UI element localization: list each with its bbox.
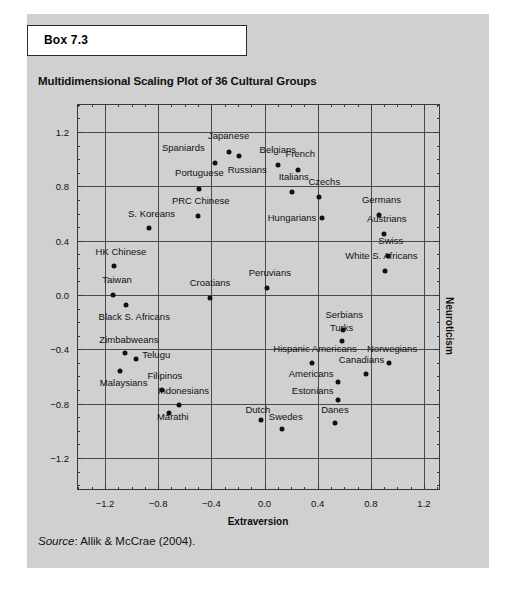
- data-point-label: Americans: [289, 368, 334, 379]
- data-point-label: Norwegians: [367, 343, 417, 354]
- data-point-label: White S. Africans: [345, 250, 417, 261]
- data-point: [213, 161, 218, 166]
- axis-tick-y: [77, 268, 80, 269]
- data-point: [133, 356, 138, 361]
- axis-tick-y: [434, 241, 440, 242]
- axis-tick-y: [437, 472, 440, 473]
- axis-tick-y: [437, 281, 440, 282]
- axis-tick-x: [424, 104, 425, 110]
- y-tick-label: −0.4: [37, 344, 69, 355]
- axis-tick-x: [278, 104, 279, 107]
- axis-tick-y: [437, 485, 440, 486]
- y-axis-title: Neuroticism: [444, 297, 455, 355]
- axis-tick-x: [171, 104, 172, 107]
- data-point-label: Swiss: [378, 235, 403, 246]
- axis-tick-x: [105, 104, 106, 110]
- axis-tick-x: [185, 104, 186, 107]
- axis-tick-y: [77, 173, 80, 174]
- axis-tick-x: [304, 487, 305, 490]
- axis-tick-x: [132, 487, 133, 490]
- axis-tick-y: [437, 336, 440, 337]
- axis-tick-x: [185, 487, 186, 490]
- axis-tick-y: [437, 105, 440, 106]
- axis-tick-x: [331, 487, 332, 490]
- axis-tick-y: [434, 295, 440, 296]
- axis-tick-y: [437, 200, 440, 201]
- data-point: [177, 402, 182, 407]
- x-tick-label: 0.8: [364, 498, 377, 509]
- axis-tick-x: [358, 104, 359, 107]
- axis-tick-x: [225, 487, 226, 490]
- axis-tick-y: [77, 105, 80, 106]
- axis-tick-y: [77, 254, 80, 255]
- axis-tick-y: [77, 336, 80, 337]
- y-tick-label: −1.2: [37, 452, 69, 463]
- axis-tick-x: [344, 104, 345, 107]
- data-point-label: Russians: [228, 164, 267, 175]
- data-point-label: HK Chinese: [96, 246, 147, 257]
- axis-tick-y: [77, 363, 80, 364]
- axis-tick-y: [77, 444, 80, 445]
- data-point-label: Dutch: [245, 404, 270, 415]
- data-point-label: Telugu: [142, 349, 170, 360]
- axis-tick-x: [145, 487, 146, 490]
- data-point: [290, 189, 295, 194]
- axis-tick-x: [171, 487, 172, 490]
- y-tick-label: 1.2: [37, 127, 69, 138]
- axis-tick-x: [411, 104, 412, 107]
- y-tick-label: 0.8: [37, 181, 69, 192]
- data-point-label: Black S. Africans: [99, 311, 170, 322]
- data-point-label: Portuguese: [175, 167, 224, 178]
- axis-tick-x: [384, 104, 385, 107]
- data-point-label: PRC Chinese: [172, 195, 230, 206]
- x-tick-label: −0.4: [202, 498, 221, 509]
- axis-tick-y: [77, 295, 83, 296]
- data-point: [316, 195, 321, 200]
- data-point-label: Swedes: [269, 411, 303, 422]
- axis-tick-y: [77, 309, 80, 310]
- page-root: Box 7.3 Multidimensional Scaling Plot of…: [0, 0, 516, 594]
- x-tick-label: 0.0: [258, 498, 271, 509]
- data-point: [226, 150, 231, 155]
- axis-tick-x: [397, 487, 398, 490]
- axis-tick-y: [434, 458, 440, 459]
- data-point: [275, 162, 280, 167]
- axis-tick-x: [265, 484, 266, 490]
- y-tick-label: 0.4: [37, 235, 69, 246]
- axis-tick-y: [77, 472, 80, 473]
- axis-tick-y: [434, 349, 440, 350]
- axis-tick-y: [437, 254, 440, 255]
- axis-tick-x: [291, 487, 292, 490]
- axis-tick-x: [371, 484, 372, 490]
- data-point: [335, 397, 340, 402]
- axis-tick-y: [437, 309, 440, 310]
- axis-tick-y: [77, 214, 80, 215]
- axis-tick-x: [145, 104, 146, 107]
- data-point: [383, 268, 388, 273]
- data-point: [310, 360, 315, 365]
- axis-tick-x: [251, 104, 252, 107]
- axis-tick-y: [437, 390, 440, 391]
- axis-tick-x: [397, 104, 398, 107]
- data-point-label: Turks: [330, 322, 353, 333]
- data-point: [265, 286, 270, 291]
- axis-tick-x: [158, 484, 159, 490]
- axis-tick-x: [344, 487, 345, 490]
- data-point-label: Filipinos: [147, 370, 182, 381]
- axis-tick-y: [77, 241, 83, 242]
- axis-tick-x: [291, 104, 292, 107]
- data-point: [197, 187, 202, 192]
- data-point: [279, 427, 284, 432]
- axis-tick-y: [437, 431, 440, 432]
- axis-tick-x: [158, 104, 159, 110]
- axis-tick-y: [434, 186, 440, 187]
- data-point-label: S. Koreans: [128, 208, 175, 219]
- axis-tick-x: [265, 104, 266, 110]
- data-point: [387, 360, 392, 365]
- data-point-label: Zimbabweans: [99, 334, 158, 345]
- axis-tick-y: [77, 118, 80, 119]
- data-point: [110, 293, 115, 298]
- axis-tick-x: [118, 487, 119, 490]
- data-point: [122, 351, 127, 356]
- data-point-label: Estonians: [292, 385, 334, 396]
